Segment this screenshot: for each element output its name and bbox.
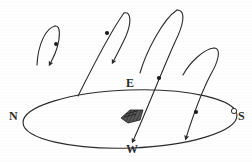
observer-marker [121, 110, 143, 123]
arc-2 [78, 13, 130, 96]
rising-point-circle [231, 108, 236, 113]
object-dot-2 [105, 31, 109, 35]
cardinal-label-south: S [238, 110, 245, 122]
arc-3 [133, 10, 183, 141]
arc-1 [37, 26, 59, 65]
object-dot-1 [54, 42, 58, 46]
object-dot-4 [194, 110, 198, 114]
object-dot-3 [157, 76, 161, 80]
cardinal-label-north: N [9, 110, 18, 122]
figure-canvas: N E S W [0, 0, 252, 162]
cardinal-label-west: W [126, 143, 138, 155]
cardinal-label-east: E [126, 77, 134, 89]
